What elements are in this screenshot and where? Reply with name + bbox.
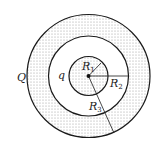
center-point <box>87 74 91 78</box>
label-outer-charge: Q <box>17 71 26 84</box>
concentric-spheres-diagram: Q q R1 R2 R3 <box>0 0 163 159</box>
label-inner-charge: q <box>58 69 65 82</box>
